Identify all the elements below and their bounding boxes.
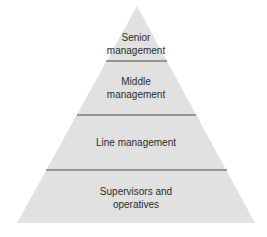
pyramid-diagram: Senior management Middle management Line…: [0, 0, 267, 237]
level-label-line: Line management: [96, 137, 176, 148]
level-label-line: operatives: [113, 199, 159, 210]
level-label-line: Supervisors and: [100, 186, 172, 197]
level-label-line: management: [107, 89, 166, 100]
level-line-management: Line management: [96, 137, 176, 148]
level-label-line: Middle: [121, 76, 151, 87]
level-label-line: Senior: [122, 32, 152, 43]
level-label-line: management: [107, 45, 166, 56]
